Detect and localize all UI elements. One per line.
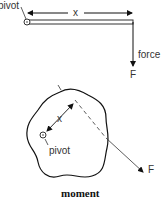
moment-diagram: pivot x force F x pivot F moment	[0, 0, 163, 203]
caption: moment	[61, 188, 100, 199]
bottom-distance-label: x	[57, 114, 62, 124]
bottom-force-arrow	[106, 138, 143, 172]
rod	[27, 20, 133, 24]
top-force-label: force	[138, 50, 160, 60]
bottom-pivot-label: pivot	[49, 146, 70, 156]
body-shape	[27, 89, 108, 177]
top-distance-label: x	[73, 8, 78, 18]
bottom-force-symbol: F	[148, 165, 154, 175]
top-force-symbol: F	[130, 70, 136, 80]
line-of-action	[75, 100, 106, 138]
diagram-graphics	[0, 0, 163, 203]
top-pivot-label: pivot	[0, 1, 19, 11]
top-pivot-leader	[21, 7, 26, 19]
